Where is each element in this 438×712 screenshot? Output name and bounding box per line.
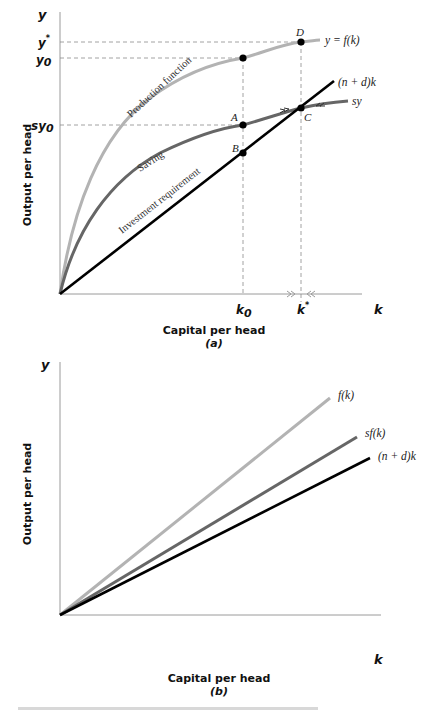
production-function-curve — [60, 40, 320, 294]
point-a — [239, 121, 246, 128]
x-axis-title: Capital per head — [163, 324, 266, 337]
investment-curve-label: (n + d)k — [378, 450, 417, 463]
sy0-label: sy0 — [31, 119, 54, 135]
sf-k-line — [60, 437, 357, 615]
y-axis-symbol: y — [41, 357, 50, 372]
saving-text: Saving — [135, 148, 166, 174]
saving-curve — [60, 101, 348, 294]
saving-curve-label: sy — [352, 95, 362, 108]
y-axis-symbol: y — [38, 7, 47, 22]
point-d — [297, 38, 304, 45]
cropped-caption-fragment — [18, 707, 318, 710]
k-star-label: k* — [297, 301, 310, 317]
investment-requirement-line — [60, 458, 370, 615]
x-axis-title: Capital per head — [168, 672, 271, 685]
y0-label: y0 — [36, 53, 52, 69]
production-function-text: Production function — [125, 54, 194, 120]
figure: D A B C y = f(k) (n + d)k sy Production … — [0, 0, 438, 712]
point-a-label: A — [230, 111, 238, 123]
investment-requirement-line — [60, 81, 334, 294]
sf-k-label: sf(k) — [365, 427, 386, 440]
point-y0 — [239, 54, 246, 61]
panel-a: D A B C y = f(k) (n + d)k sy Production … — [21, 7, 384, 350]
y-axis-title: Output per head — [21, 443, 34, 545]
point-b-label: B — [232, 142, 239, 154]
f-k-label: f(k) — [338, 389, 354, 402]
point-b — [239, 149, 246, 156]
k0-label: k0 — [236, 303, 252, 320]
production-curve-label: y = f(k) — [324, 34, 360, 47]
y-axis-title: Output per head — [21, 124, 34, 226]
f-k-line — [60, 398, 330, 615]
panel-b-label: (b) — [210, 685, 228, 698]
panel-a-label: (a) — [205, 337, 222, 350]
x-axis-symbol: k — [374, 302, 384, 317]
guide-lines — [60, 42, 301, 302]
x-axis-symbol: k — [374, 652, 384, 667]
panel-b: f(k) sf(k) (n + d)k y k Output per head … — [21, 357, 417, 698]
point-d-label: D — [295, 26, 304, 38]
point-c-label: C — [304, 111, 312, 123]
y-star-label: y* — [38, 34, 51, 50]
investment-curve-label: (n + d)k — [338, 76, 377, 89]
